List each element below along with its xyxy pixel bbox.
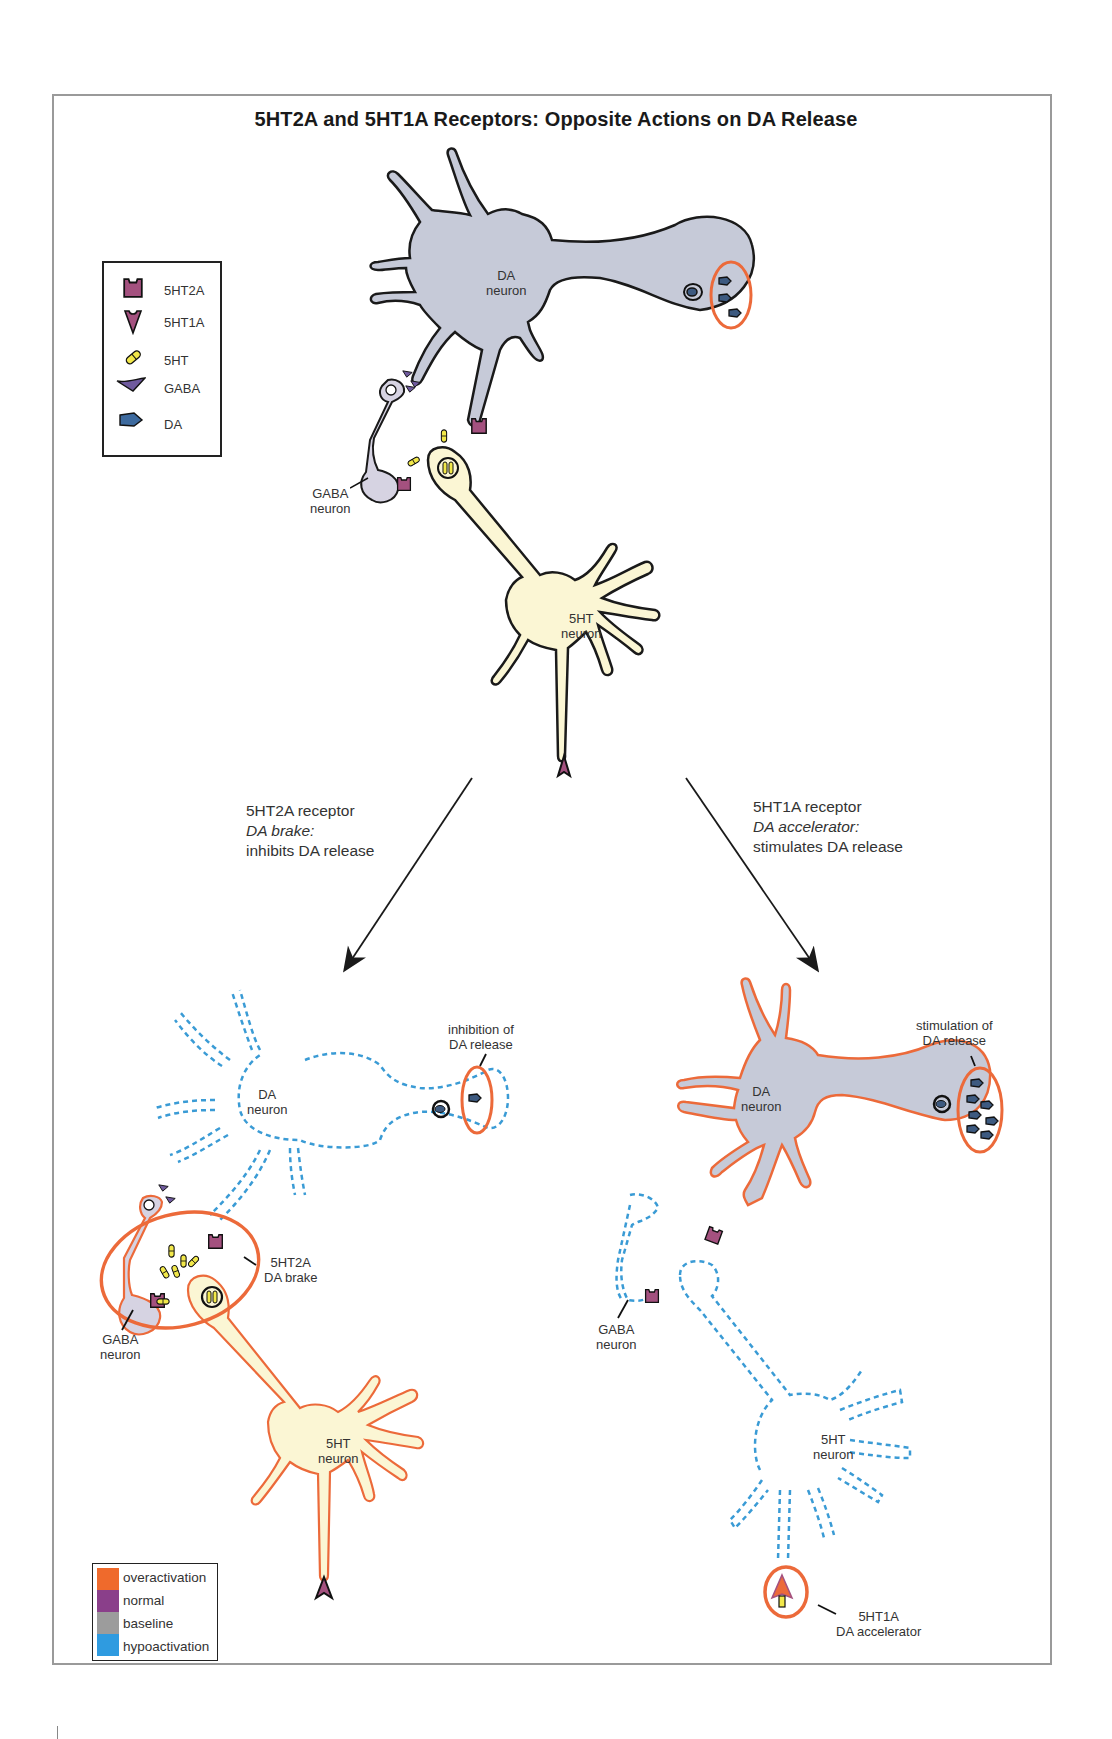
activity-legend: overactivation normal baseline hypoactiv… (92, 1563, 218, 1661)
page-tick-mark (57, 1726, 58, 1739)
normal-swatch (97, 1590, 119, 1612)
accelerator-serotonin-neuron-label: 5HTneuron (813, 1432, 853, 1462)
symbol-legend: 5HT2A 5HT1A 5HT GABA DA (102, 261, 222, 457)
top-da-neuron (371, 148, 754, 426)
brake-gaba-neuron-label: GABAneuron (100, 1332, 140, 1362)
brake-serotonin-neuron-overactive (188, 1276, 423, 1581)
legend-item-5ht1a: 5HT1A (104, 307, 222, 337)
5ht2a-brake-highlight (88, 1195, 272, 1345)
top-da-neuron-label: DAneuron (486, 268, 526, 298)
gaba-label-leader (350, 476, 370, 490)
5ht2a-receptor-on-gaba-neuron (398, 478, 411, 491)
accelerator-da-neuron-overactive (677, 978, 990, 1205)
5ht-molecule-icon (122, 347, 144, 367)
accelerator-caption: 5HT1A receptor DA accelerator: stimulate… (753, 797, 903, 857)
5ht2a-receptor-on-da-neuron (472, 419, 486, 433)
hypoactivation-swatch (97, 1634, 119, 1656)
da-molecule-icon (118, 411, 144, 429)
legend-item-5ht2a: 5HT2A (104, 275, 222, 305)
top-gaba-neuron-label: GABAneuron (310, 486, 350, 516)
accelerator-da-neuron-label: DAneuron (741, 1084, 781, 1114)
5ht2a-receptor-icon (122, 277, 144, 299)
accelerator-serotonin-neuron-hypoactive (680, 1261, 910, 1560)
5ht2a-da-brake-label: 5HT2ADA brake (264, 1255, 317, 1285)
5ht1a-da-accelerator-label: 5HT1ADA accelerator (836, 1609, 921, 1639)
legend-item-gaba: GABA (104, 373, 222, 403)
stimulation-of-da-release-label: stimulation ofDA release (916, 1018, 993, 1048)
brake-da-neuron-label: DAneuron (247, 1087, 287, 1117)
legend-item-da: DA (104, 409, 222, 439)
baseline-swatch (97, 1612, 119, 1634)
accelerator-gaba-neuron-hypoactive (621, 1194, 658, 1301)
gaba-molecule-icon (116, 375, 146, 395)
overactivation-swatch (97, 1568, 119, 1590)
top-serotonin-neuron (428, 447, 659, 761)
5ht1a-receptor-icon (122, 309, 144, 335)
brake-gaba-neuron-overactive (119, 1196, 162, 1334)
brake-caption: 5HT2A receptor DA brake: inhibits DA rel… (246, 801, 374, 861)
top-serotonin-neuron-label: 5HTneuron (561, 611, 601, 641)
inhibition-of-da-release-label: inhibition ofDA release (448, 1022, 514, 1052)
accelerator-gaba-neuron-label: GABAneuron (596, 1322, 636, 1352)
legend-item-5ht: 5HT (104, 345, 222, 375)
brake-serotonin-neuron-label: 5HTneuron (318, 1436, 358, 1466)
